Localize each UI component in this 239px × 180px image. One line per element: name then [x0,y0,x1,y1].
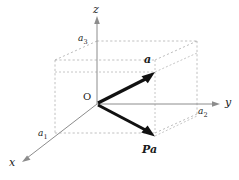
x-axis [22,104,97,162]
projection-diagonal-a [155,53,197,72]
a2-label: a2 [198,107,208,118]
a1-label: a1 [38,129,48,140]
box-edge-top-right-slant [155,41,197,60]
vector-a-shaft [98,79,147,104]
box-edge-top-left-slant [55,41,97,60]
vector-a [98,72,155,103]
vector-pa-label: Pa [142,144,157,155]
y-axis-label: y [225,97,231,108]
vector-a-label: a [144,54,151,65]
z-axis-arrowhead [94,16,100,24]
vector-pa [98,105,155,137]
vector-pa-shaft [98,105,147,131]
box-edge-bottom-right-slant [155,114,197,133]
origin-label: O [83,92,91,102]
a3-label: a3 [78,34,88,45]
figure-canvas [0,0,239,180]
vector-projection-figure: z y x a3 a2 a1 O a Pa [0,0,239,180]
projection-diagonal-pa [155,116,197,136]
z-axis-label: z [93,4,99,15]
y-axis-arrowhead [212,101,220,107]
x-axis-label: x [9,157,15,168]
